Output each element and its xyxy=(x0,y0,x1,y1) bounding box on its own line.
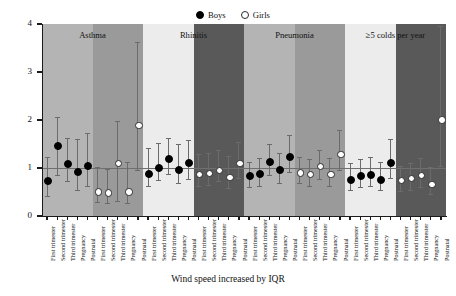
x-axis-tick xyxy=(218,216,219,220)
confidence-interval xyxy=(440,26,441,165)
data-point-girls xyxy=(105,189,112,196)
data-point-boys xyxy=(347,176,355,184)
x-axis-tick-label: Second trimester xyxy=(413,219,419,261)
ci-cap xyxy=(327,186,332,187)
data-point-boys xyxy=(387,159,395,167)
x-axis-tick xyxy=(370,216,371,220)
x-axis-tick xyxy=(420,216,421,220)
data-point-boys xyxy=(266,158,274,166)
ci-cap xyxy=(176,144,181,145)
x-axis-tick-label: Postnatal xyxy=(292,238,298,261)
x-axis-tick-label: Third trimester xyxy=(322,224,328,261)
ci-cap xyxy=(438,26,443,27)
x-axis-tick xyxy=(178,216,179,220)
confidence-interval xyxy=(198,154,199,187)
x-axis-tick xyxy=(380,216,381,220)
y-axis-tick xyxy=(37,167,42,168)
ci-cap xyxy=(166,174,171,175)
x-axis-tick-label: Third trimester xyxy=(171,224,177,261)
ci-cap xyxy=(125,162,130,163)
x-axis-tick xyxy=(289,216,290,220)
ci-cap xyxy=(65,181,70,182)
data-point-boys xyxy=(276,166,284,174)
ci-cap xyxy=(95,167,100,168)
panel-title: ≥5 colds per year xyxy=(336,30,456,40)
ci-cap xyxy=(348,190,353,191)
data-marks-layer xyxy=(42,24,446,216)
x-axis-tick xyxy=(127,216,128,220)
x-axis-tick-label: Second trimester xyxy=(161,219,167,261)
x-axis-tick-label: Postnatal xyxy=(393,238,399,261)
x-axis-tick xyxy=(319,216,320,220)
data-point-boys xyxy=(155,164,163,172)
x-axis-tick xyxy=(430,216,431,220)
x-axis-tick-label: Third trimester xyxy=(272,224,278,261)
data-point-girls xyxy=(398,177,405,184)
x-axis-tick xyxy=(198,216,199,220)
data-point-girls xyxy=(307,171,314,178)
x-axis-tick-label: First trimester xyxy=(403,226,409,261)
x-axis-tick-label: Third trimester xyxy=(70,224,76,261)
ci-cap xyxy=(206,185,211,186)
x-axis-tick-label: Pregnancy xyxy=(181,235,187,261)
x-axis-tick xyxy=(390,216,391,220)
y-axis-tick-label: 2 xyxy=(10,115,32,124)
x-axis-tick xyxy=(238,216,239,220)
ci-cap xyxy=(156,180,161,181)
data-point-boys xyxy=(44,177,52,185)
ci-cap xyxy=(368,186,373,187)
ci-cap xyxy=(75,190,80,191)
x-axis-tick xyxy=(279,216,280,220)
confidence-interval xyxy=(77,139,78,189)
ci-cap xyxy=(277,183,282,184)
x-axis-tick xyxy=(168,216,169,220)
ci-cap xyxy=(257,158,262,159)
data-point-girls xyxy=(226,174,233,181)
open-circle-icon xyxy=(241,11,249,19)
data-point-girls xyxy=(216,167,223,174)
ci-cap xyxy=(85,133,90,134)
data-point-boys xyxy=(74,168,82,176)
ci-cap xyxy=(135,42,140,43)
x-axis-tick-label: Third trimester xyxy=(221,224,227,261)
ci-cap xyxy=(257,186,262,187)
ci-cap xyxy=(115,121,120,122)
confidence-interval xyxy=(127,162,128,202)
x-axis-tick-label: First trimester xyxy=(151,226,157,261)
x-axis-tick xyxy=(339,216,340,220)
legend-item-boys: Boys xyxy=(196,10,226,20)
y-axis-tick xyxy=(37,119,42,120)
data-point-girls xyxy=(206,170,213,177)
data-point-boys xyxy=(357,172,365,180)
ci-cap xyxy=(236,142,241,143)
x-axis-tick xyxy=(77,216,78,220)
y-axis-tick xyxy=(37,215,42,216)
ci-cap xyxy=(45,157,50,158)
ci-cap xyxy=(146,148,151,149)
confidence-interval xyxy=(158,143,159,180)
ci-cap xyxy=(337,130,342,131)
ci-cap xyxy=(317,179,322,180)
data-point-girls xyxy=(135,122,142,129)
ci-cap xyxy=(408,190,413,191)
data-point-girls xyxy=(428,181,435,188)
x-axis-tick xyxy=(248,216,249,220)
x-axis-tick xyxy=(137,216,138,220)
confidence-interval xyxy=(228,156,229,188)
ci-cap xyxy=(428,194,433,195)
x-axis-title: Wind speed increased by IQR xyxy=(0,274,456,284)
ci-cap xyxy=(388,178,393,179)
x-axis-tick xyxy=(57,216,58,220)
data-point-girls xyxy=(337,151,344,158)
ci-cap xyxy=(75,139,80,140)
x-axis-tick xyxy=(46,216,47,220)
x-axis-tick xyxy=(299,216,300,220)
data-point-girls xyxy=(317,163,324,170)
ci-cap xyxy=(166,138,171,139)
ci-cap xyxy=(226,156,231,157)
ci-cap xyxy=(358,187,363,188)
data-point-girls xyxy=(418,172,425,179)
ci-cap xyxy=(277,153,282,154)
ci-cap xyxy=(267,175,272,176)
data-point-girls xyxy=(327,171,334,178)
